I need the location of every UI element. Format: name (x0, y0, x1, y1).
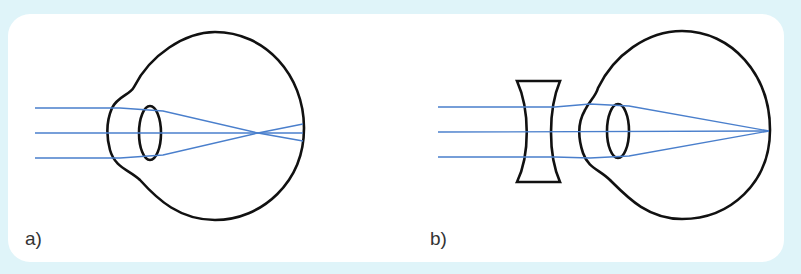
eye-diagram-a (35, 32, 304, 220)
panel-label-a: a) (25, 228, 42, 250)
diagram-canvas (0, 0, 801, 274)
light-rays-a (35, 108, 303, 158)
light-rays-b (438, 104, 769, 158)
eyeball-outline-a (107, 32, 304, 220)
eye-diagram-b (438, 31, 770, 219)
panel-label-b: b) (430, 228, 447, 250)
